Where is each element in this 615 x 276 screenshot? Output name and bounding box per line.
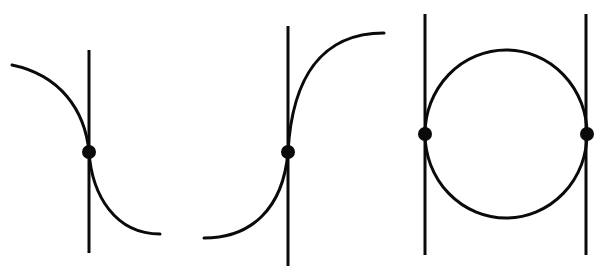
tangent-point-dot-right <box>580 127 594 141</box>
figure-3 <box>418 14 594 255</box>
figure-2 <box>204 26 384 266</box>
circle <box>425 50 587 218</box>
figure-1 <box>12 50 160 253</box>
tangent-point-dot <box>281 145 295 159</box>
tangent-point-dot <box>82 145 96 159</box>
diagram-canvas <box>0 0 615 276</box>
curve <box>204 33 384 238</box>
tangent-point-dot-left <box>418 127 432 141</box>
